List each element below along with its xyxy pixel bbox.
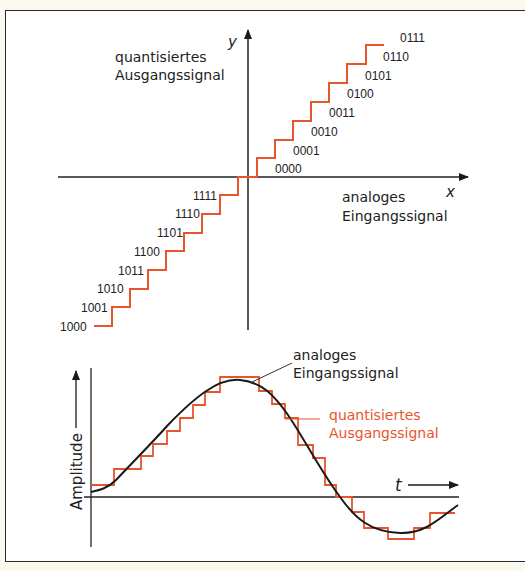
top-y-label-line1: quantisiertes bbox=[115, 49, 207, 65]
analog-leader bbox=[250, 363, 292, 383]
amplitude-label: Amplitude bbox=[68, 433, 86, 510]
quantization-staircase bbox=[94, 45, 384, 326]
code-label: 1010 bbox=[97, 282, 124, 296]
code-label: 0111 bbox=[400, 31, 425, 45]
code-label: 0000 bbox=[275, 162, 302, 176]
code-label: 1000 bbox=[60, 320, 87, 334]
top-x-label-line2: Eingangssignal bbox=[342, 208, 448, 224]
code-label: 0001 bbox=[293, 144, 320, 158]
code-label: 0100 bbox=[347, 87, 374, 101]
quantized-label-line1: quantisiertes bbox=[329, 407, 421, 423]
top-x-label-line1: analoges bbox=[342, 189, 405, 205]
positive-code-labels: 0000 0001 0010 0011 0100 0101 0110 0111 bbox=[275, 31, 425, 176]
code-label: 1100 bbox=[134, 245, 160, 259]
code-label: 1111 bbox=[193, 189, 217, 203]
code-label: 0010 bbox=[311, 125, 338, 139]
time-label: t bbox=[395, 475, 403, 495]
top-y-label-line2: Ausgangssignal bbox=[115, 67, 225, 83]
top-chart: y x quantisiertes Ausgangssignal analoge… bbox=[58, 30, 468, 334]
code-label: 0110 bbox=[383, 50, 409, 64]
code-label: 0101 bbox=[365, 69, 392, 83]
code-label: 0011 bbox=[329, 106, 355, 120]
top-x-axis-label: x bbox=[445, 183, 455, 201]
top-y-axis-label: y bbox=[227, 33, 238, 51]
quantized-signal bbox=[91, 377, 455, 539]
quantized-label-line2: Ausgangssignal bbox=[329, 425, 439, 441]
negative-code-labels: 1111 1110 1101 1100 1011 1010 1001 1000 bbox=[60, 189, 217, 334]
code-label: 1011 bbox=[118, 264, 144, 278]
analog-label-line1: analoges bbox=[293, 347, 356, 363]
code-label: 1110 bbox=[175, 207, 200, 221]
code-label: 1001 bbox=[81, 301, 108, 315]
bottom-chart: Amplitude t analoges Eingangssignal quan… bbox=[68, 347, 459, 547]
code-label: 1101 bbox=[157, 226, 183, 240]
analog-label-line2: Eingangssignal bbox=[293, 365, 399, 381]
